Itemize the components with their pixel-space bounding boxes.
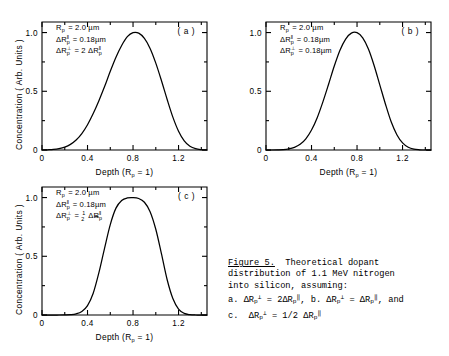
x-axis-title: Depth (Rp = 1) (96, 332, 154, 343)
annotation-line: ΔRp⊥ = 12 ΔRp‖ (56, 210, 102, 221)
svg-text:1.2: 1.2 (396, 154, 409, 163)
svg-text:0: 0 (33, 146, 38, 155)
svg-text:0.4: 0.4 (81, 154, 94, 163)
annotation-line: ΔRp‖ = 0.18µm (56, 34, 106, 45)
annotation-line: ΔRp‖ = 0.18µm (280, 34, 330, 45)
svg-text:1.0: 1.0 (249, 29, 262, 38)
plot-b: 00.40.81.200.51.0( b )Rp = 2.0 µmΔRp‖ = … (224, 0, 449, 180)
svg-text:0: 0 (264, 154, 269, 163)
svg-text:0.8: 0.8 (351, 154, 364, 163)
annotation-line: ΔRp⊥ = 2 ΔRp‖ (56, 45, 102, 56)
x-axis-title: Depth (Rp = 1) (320, 167, 378, 178)
svg-text:0: 0 (257, 146, 262, 155)
svg-text:1.0: 1.0 (25, 194, 38, 203)
panel-tag: ( c ) (178, 191, 195, 201)
svg-text:0.8: 0.8 (127, 319, 140, 328)
y-axis-label-a: Concentration ( Arb. Units ) (14, 39, 24, 150)
annotation-line: ΔRp⊥ = 0.18µm (280, 45, 332, 56)
svg-text:1.2: 1.2 (172, 154, 185, 163)
svg-text:0: 0 (40, 319, 45, 328)
panel-b: 00.40.81.200.51.0( b )Rp = 2.0 µmΔRp‖ = … (224, 0, 449, 180)
annotation-line: Rp = 2.0 µm (280, 23, 323, 33)
caption-figure-label: Figure 5. (228, 258, 275, 268)
panel-a: Concentration ( Arb. Units ) 00.40.81.20… (0, 0, 224, 180)
caption-line-3: into silicon, assuming: (228, 281, 444, 292)
svg-text:0: 0 (40, 154, 45, 163)
y-axis-label-c: Concentration ( Arb. Units ) (14, 204, 24, 315)
svg-text:0.5: 0.5 (249, 87, 262, 96)
svg-text:0.4: 0.4 (305, 154, 318, 163)
svg-text:1.0: 1.0 (25, 29, 38, 38)
svg-text:0.4: 0.4 (81, 319, 94, 328)
annotation-line: Rp = 2.0 µm (56, 188, 99, 198)
svg-text:0.5: 0.5 (25, 252, 38, 261)
caption-line-5: c. ΔRp⊥ = 1/2 ΔRp‖ (228, 308, 444, 324)
panel-c: Concentration ( Arb. Units ) 00.40.81.20… (0, 165, 224, 345)
svg-text:1.2: 1.2 (172, 319, 185, 328)
svg-text:0.5: 0.5 (25, 87, 38, 96)
figure-caption: Figure 5. Theoretical dopantdistribution… (228, 258, 444, 323)
svg-text:0.8: 0.8 (127, 154, 140, 163)
caption-line-2: distribution of 1.1 MeV nitrogen (228, 269, 444, 280)
caption-line-1: Figure 5. Theoretical dopant (228, 258, 444, 269)
caption-line-4: a. ΔRp⊥ = 2ΔRp‖, b. ΔRp⊥ = ΔRp‖, and (228, 292, 444, 308)
plot-a: 00.40.81.200.51.0( a )Rp = 2.0 µmΔRp‖ = … (0, 0, 224, 180)
panel-tag: ( b ) (402, 26, 419, 36)
annotation-line: Rp = 2.0 µm (56, 23, 99, 33)
svg-text:0: 0 (33, 311, 38, 320)
annotation-line: ΔRp‖ = 0.18µm (56, 199, 106, 210)
plot-c: 00.40.81.200.51.0( c )Rp = 2.0 µmΔRp‖ = … (0, 165, 224, 345)
panel-tag: ( a ) (178, 26, 195, 36)
